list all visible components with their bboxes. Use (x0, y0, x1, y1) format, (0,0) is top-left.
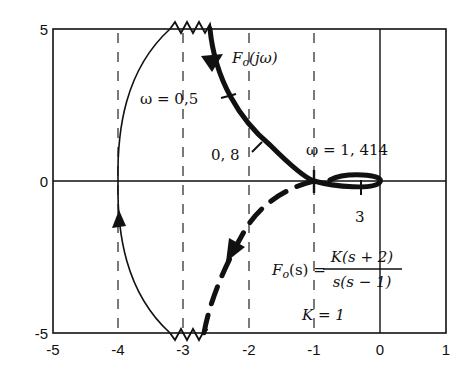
tf-numerator: K(s + 2) (330, 248, 393, 266)
x-tick: -1 (307, 341, 320, 358)
label-w05: ω = 0,5 (140, 90, 198, 108)
x-tick: -5 (46, 341, 59, 358)
label-w3: 3 (355, 208, 365, 226)
arrow-dashed-icon (226, 238, 245, 262)
nyquist-branch-negative (204, 181, 314, 333)
label-w08: 0, 8 (211, 146, 240, 164)
tick-w08 (252, 142, 262, 152)
y-tick: 0 (40, 173, 48, 190)
label-w1414: ω = 1, 414 (306, 141, 388, 159)
x-tick: 0 (376, 341, 384, 358)
x-tick-labels: -5 -4 -3 -2 -1 0 1 (46, 341, 450, 358)
zigzag-top (170, 22, 211, 33)
curve-label: Fo(jω) (231, 49, 278, 69)
x-tick: -2 (242, 341, 255, 358)
y-tick-labels: 5 0 -5 (35, 21, 48, 342)
arrow-up-icon (112, 210, 126, 228)
k-value: K = 1 (301, 306, 345, 324)
x-tick: -3 (176, 341, 189, 358)
x-tick: -4 (111, 341, 124, 358)
x-tick: 1 (442, 341, 450, 358)
nyquist-chart: -5 -4 -3 -2 -1 0 1 5 0 -5 Fo(jω) ω = 0,5… (0, 0, 471, 383)
tf-lhs: Fo(s) = (271, 261, 326, 281)
y-tick: 5 (40, 21, 48, 38)
tf-denominator: s(s − 1) (333, 273, 392, 291)
y-tick: -5 (35, 325, 48, 342)
